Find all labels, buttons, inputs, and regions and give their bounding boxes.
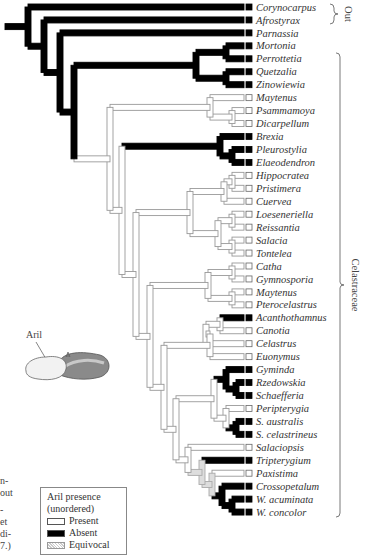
taxon-row: W. acuminata <box>246 494 313 505</box>
taxon-row: Brexia <box>246 131 284 142</box>
taxon-row: Crossopetalum <box>246 481 320 492</box>
state-square-present <box>246 185 252 191</box>
branch-absent <box>196 49 226 55</box>
state-square-absent <box>246 134 252 140</box>
state-square-present <box>246 328 252 334</box>
taxon-row: Euonymus <box>246 351 300 362</box>
taxon-label: Schaefferia <box>256 390 304 401</box>
branch-absent <box>44 17 244 23</box>
branch-present <box>188 444 244 450</box>
taxon-row: Mortonia <box>246 40 296 51</box>
legend-item-present: Present <box>47 515 120 527</box>
state-square-present <box>246 289 252 295</box>
taxon-label: Catha <box>256 261 282 272</box>
taxon-label: Canotia <box>256 325 290 336</box>
taxon-label: Pterocelastrus <box>255 299 317 310</box>
taxon-row: Celastrus <box>246 338 296 349</box>
taxon-row: Catha <box>246 261 282 272</box>
taxon-row: Salaciopsis <box>246 442 304 453</box>
taxon-row: Acanthothamnus <box>246 312 327 323</box>
branch-absent <box>220 315 244 321</box>
caption-fragment: 7.) <box>0 540 11 552</box>
taxon-label: Acanthothamnus <box>255 312 327 323</box>
legend-item-equivocal: Equivocal <box>47 539 120 551</box>
taxon-row: Pristimera <box>246 183 301 194</box>
taxon-row: Pleurostylia <box>246 144 307 155</box>
taxon-row: Psammamoya <box>246 105 315 116</box>
taxon-row: Elaeodendron <box>246 157 315 168</box>
branch-absent <box>74 62 196 68</box>
branch-present <box>190 189 224 195</box>
branch-present <box>220 328 244 334</box>
state-square-absent <box>246 483 252 489</box>
taxon-label: Maytenus <box>255 287 297 298</box>
branch-absent <box>122 143 220 149</box>
equivocal-swatch <box>47 542 65 549</box>
caption-fragment: di- <box>0 528 11 540</box>
taxon-row: Peripterygia <box>246 403 309 414</box>
branch-present <box>164 342 210 348</box>
branch-present <box>110 104 210 110</box>
taxon-label: S. celastrineus <box>256 429 317 440</box>
state-square-present <box>246 302 252 308</box>
branch-present <box>74 156 110 162</box>
taxon-row: Gymnosporia <box>246 274 313 285</box>
branch-absent <box>220 134 244 140</box>
taxon-label: W. concolor <box>256 507 307 518</box>
branch-present <box>208 269 232 275</box>
state-square-present <box>246 250 252 256</box>
taxon-label: W. acuminata <box>256 494 313 505</box>
taxon-label: Paxistima <box>255 468 298 479</box>
state-square-present <box>246 95 252 101</box>
state-square-absent <box>246 315 252 321</box>
taxon-label: Celastrus <box>256 338 296 349</box>
state-square-absent <box>246 431 252 437</box>
branch-present <box>150 282 208 288</box>
taxon-label: Reissantia <box>255 222 300 233</box>
branch-absent <box>28 4 244 10</box>
taxon-label: Peripterygia <box>255 403 309 414</box>
state-square-absent <box>246 509 252 515</box>
taxon-label: Pristimera <box>255 183 301 194</box>
taxon-label: Loeseneriella <box>255 209 313 220</box>
state-square-present <box>246 198 252 204</box>
branch-absent <box>202 457 244 463</box>
branch-present <box>212 470 244 476</box>
taxon-label: Quetzalia <box>256 66 297 77</box>
taxon-label: Rzedowskia <box>255 377 306 388</box>
state-square-present <box>246 276 252 282</box>
taxon-row: Maytenus <box>246 92 297 103</box>
taxon-row: Tripterygium <box>246 455 311 466</box>
state-square-present <box>246 405 252 411</box>
branch-present <box>210 95 244 101</box>
branch-present <box>208 295 232 301</box>
state-square-absent <box>246 393 252 399</box>
taxon-label: S. australis <box>256 416 303 427</box>
state-square-absent <box>246 30 252 36</box>
state-square-absent <box>246 43 252 49</box>
tree-branches <box>5 4 244 515</box>
brace <box>330 4 338 24</box>
state-square-present <box>246 108 252 114</box>
taxon-label: Psammamoya <box>255 105 315 116</box>
state-square-present <box>246 211 252 217</box>
taxon-row: Perrottetia <box>246 53 302 64</box>
taxon-label: Elaeodendron <box>255 157 315 168</box>
caption-fragment: - <box>0 504 3 516</box>
branch-present <box>176 396 214 402</box>
caption-fragment: n- <box>0 475 8 487</box>
taxon-label: Corynocarpus <box>256 2 316 13</box>
taxon-label: Euonymus <box>255 351 300 362</box>
taxon-row: Canotia <box>246 325 290 336</box>
state-square-present <box>246 263 252 269</box>
taxon-row: Maytenus <box>246 287 297 298</box>
legend-subtitle: (unordered) <box>47 503 120 515</box>
aril-illustration <box>20 335 120 385</box>
outgroup-label: Out <box>343 6 354 22</box>
taxon-label: Mortonia <box>255 40 296 51</box>
state-square-absent <box>246 69 252 75</box>
caption-fragment: out <box>0 487 13 499</box>
state-square-absent <box>246 418 252 424</box>
taxon-row: Rzedowskia <box>246 377 306 388</box>
state-square-absent <box>246 159 252 165</box>
